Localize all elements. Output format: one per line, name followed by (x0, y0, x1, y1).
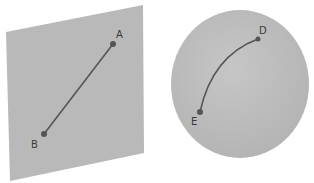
point-d (256, 37, 261, 42)
sphere-panel: D E (171, 10, 309, 158)
plane-panel: A B (6, 5, 144, 181)
point-e (197, 109, 203, 115)
label-b: B (31, 139, 38, 150)
diagram-stage: A B D E (0, 0, 314, 183)
point-a (110, 41, 116, 47)
label-d: D (259, 25, 267, 36)
label-a: A (116, 29, 123, 40)
diagram-canvas: A B D E (0, 0, 314, 183)
label-e: E (191, 116, 197, 127)
sphere-surface (171, 10, 309, 158)
point-b (41, 131, 47, 137)
